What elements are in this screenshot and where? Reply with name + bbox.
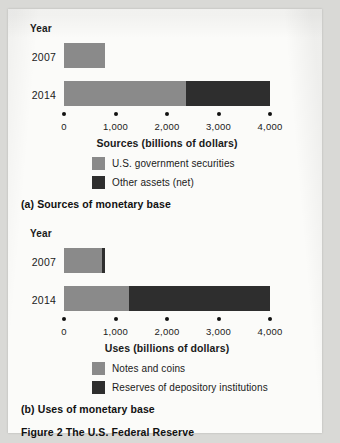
panel-a-tick-label-3000: 3,000 xyxy=(206,121,231,132)
panel-b-tick-label-0: 0 xyxy=(61,326,66,337)
panel-b-tick-dot-3000 xyxy=(217,317,221,321)
panel-b-legend-row-reserves: Reserves of depository institutions xyxy=(92,380,268,395)
panel-a-tick-dot-4000 xyxy=(268,112,272,116)
panel-b-tick-labels: 0 1,000 2,000 3,000 4,000 xyxy=(64,326,270,340)
panel-b-plot-area: 2007 2014 xyxy=(8,242,322,314)
panel-a-tick-dot-0 xyxy=(62,112,66,116)
panel-a-tick-dot-3000 xyxy=(217,112,221,116)
panel-a-tick-label-0: 0 xyxy=(61,121,66,132)
panel-b-bar-2014-seg-notes xyxy=(64,286,129,311)
panel-a-tick-label-4000: 4,000 xyxy=(258,121,283,132)
panel-a-bar-2007 xyxy=(64,43,105,68)
panel-b-bars xyxy=(64,242,270,314)
panel-b-tick-label-4000: 4,000 xyxy=(258,326,283,337)
panel-a-tick-label-2000: 2,000 xyxy=(155,121,180,132)
panel-a-axis-title: Sources (billions of dollars) xyxy=(64,137,270,149)
panel-a-axis xyxy=(64,112,270,118)
panel-b-tick-label-3000: 3,000 xyxy=(206,326,231,337)
panel-a-tick-label-1000: 1,000 xyxy=(103,121,128,132)
panel-b-category-label-2014: 2014 xyxy=(22,294,56,306)
figure-page: Year 2007 2014 xyxy=(8,9,322,433)
panel-a-legend-swatch-other-assets xyxy=(92,176,105,189)
panel-b-tick-label-2000: 2,000 xyxy=(155,326,180,337)
panel-a-legend-label-other-assets: Other assets (net) xyxy=(112,177,194,188)
panel-a-category-label-2014: 2014 xyxy=(22,89,56,101)
panel-b-bar-2007 xyxy=(64,248,105,273)
panel-a-bar-2014-seg-securities xyxy=(64,81,186,106)
panel-b-category-label-2007: 2007 xyxy=(22,256,56,268)
panel-a-bar-2014-seg-other-assets xyxy=(186,81,270,106)
panel-b-bar-2014 xyxy=(64,286,270,311)
panel-a-legend-row-securities: U.S. government securities xyxy=(92,156,235,171)
panel-a-bar-2007-seg-securities xyxy=(64,43,105,68)
panel-b-bar-2014-seg-reserves xyxy=(129,286,270,311)
panel-b-legend-swatch-reserves xyxy=(92,381,105,394)
panel-b-year-header: Year xyxy=(30,228,52,239)
figure-caption: Figure 2 The U.S. Federal Reserve xyxy=(21,426,194,438)
panel-a-legend-label-securities: U.S. government securities xyxy=(112,158,235,169)
panel-a-bar-2014 xyxy=(64,81,270,106)
panel-a-legend-row-other-assets: Other assets (net) xyxy=(92,175,235,190)
panel-a-tick-labels: 0 1,000 2,000 3,000 4,000 xyxy=(64,121,270,135)
panel-a-year-header: Year xyxy=(30,23,52,34)
panel-a-caption: (a) Sources of monetary base xyxy=(21,198,171,210)
panel-b-legend-label-reserves: Reserves of depository institutions xyxy=(112,382,268,393)
panel-b-legend: Notes and coins Reserves of depository i… xyxy=(92,361,268,395)
panel-b-tick-dot-0 xyxy=(62,317,66,321)
panel-b-axis xyxy=(64,317,270,323)
panel-b-legend-swatch-notes xyxy=(92,362,105,375)
panel-a-plot-area: 2007 2014 xyxy=(8,37,322,109)
panel-b-bar-2007-seg-reserves xyxy=(102,248,105,273)
panel-b-axis-title: Uses (billions of dollars) xyxy=(64,342,270,354)
panel-a-legend: U.S. government securities Other assets … xyxy=(92,156,235,190)
panel-b-tick-dot-1000 xyxy=(114,317,118,321)
panel-a-legend-swatch-securities xyxy=(92,157,105,170)
panel-b-bar-2007-seg-notes xyxy=(64,248,102,273)
panel-a-category-label-2007: 2007 xyxy=(22,51,56,63)
panel-a-tick-dot-2000 xyxy=(165,112,169,116)
panel-a-tick-dot-1000 xyxy=(114,112,118,116)
panel-b-tick-dot-4000 xyxy=(268,317,272,321)
panel-b-tick-dot-2000 xyxy=(165,317,169,321)
panel-b-legend-row-notes: Notes and coins xyxy=(92,361,268,376)
panel-a-bars xyxy=(64,37,270,109)
panel-b-tick-label-1000: 1,000 xyxy=(103,326,128,337)
panel-b-caption: (b) Uses of monetary base xyxy=(21,403,155,415)
panel-b-legend-label-notes: Notes and coins xyxy=(112,363,185,374)
